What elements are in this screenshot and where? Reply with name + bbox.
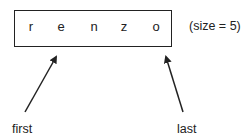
pointer-arrows [0, 0, 245, 140]
first-label: first [12, 122, 32, 136]
last-arrow-icon [166, 57, 183, 112]
first-arrow-icon [25, 57, 56, 112]
last-label: last [177, 122, 196, 136]
